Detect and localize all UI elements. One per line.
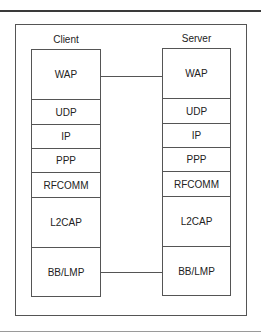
- client-layer-wap: WAP: [32, 50, 100, 100]
- client-layer-rfcomm: RFCOMM: [32, 173, 100, 198]
- server-layer-ppp: PPP: [163, 148, 230, 172]
- server-layer-rfcomm: RFCOMM: [163, 172, 230, 197]
- client-layer-ppp: PPP: [32, 149, 100, 173]
- server-layer-wap: WAP: [163, 49, 230, 99]
- server-layer-bb-lmp: BB/LMP: [163, 247, 230, 295]
- client-layer-bb-lmp: BB/LMP: [32, 248, 100, 296]
- client-layer-ip: IP: [32, 125, 100, 149]
- bottom-rule: [0, 331, 261, 332]
- client-label: Client: [31, 34, 101, 45]
- server-layer-l2cap: L2CAP: [163, 197, 230, 247]
- client-layer-udp: UDP: [32, 100, 100, 125]
- server-stack: WAP UDP IP PPP RFCOMM L2CAP BB/LMP: [162, 48, 231, 296]
- client-layer-l2cap: L2CAP: [32, 198, 100, 248]
- server-layer-udp: UDP: [163, 99, 230, 124]
- wap-peer-connector: [101, 76, 162, 77]
- top-rule: [0, 10, 261, 12]
- server-layer-ip: IP: [163, 124, 230, 148]
- bb-lmp-peer-connector: [101, 272, 162, 273]
- server-label: Server: [162, 33, 231, 44]
- client-stack: WAP UDP IP PPP RFCOMM L2CAP BB/LMP: [31, 49, 101, 297]
